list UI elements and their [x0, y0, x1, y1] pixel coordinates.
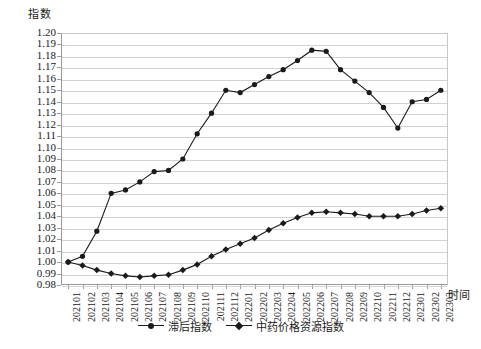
data-point [309, 210, 316, 217]
data-point [80, 254, 85, 259]
data-point [137, 179, 142, 184]
series-1 [66, 48, 444, 265]
data-point [251, 235, 258, 242]
data-point [180, 156, 185, 161]
data-point [352, 79, 357, 84]
data-point [281, 67, 286, 72]
legend-label: 滞后指数 [168, 318, 212, 334]
data-point [166, 168, 171, 173]
data-point [366, 213, 373, 220]
data-point [266, 74, 271, 79]
data-point [309, 48, 314, 53]
data-point [195, 131, 200, 136]
data-point [123, 187, 128, 192]
data-point [438, 205, 445, 212]
chart-figure: 指数 时间 1.201.191.181.171.161.151.141.131.… [0, 0, 481, 349]
data-point [238, 90, 243, 95]
data-point [79, 262, 86, 269]
data-point [323, 208, 330, 215]
data-point [209, 111, 214, 116]
circle-marker-icon [138, 321, 164, 331]
legend-item-1[interactable]: 滞后指数 [138, 318, 212, 334]
data-point [324, 49, 329, 54]
data-point [338, 67, 343, 72]
data-point [252, 82, 257, 87]
data-point [152, 169, 157, 174]
data-point [165, 271, 172, 278]
data-point [65, 259, 72, 266]
legend-item-2[interactable]: 中药价格资源指数 [226, 318, 344, 334]
data-point [395, 125, 400, 130]
chart-legend: 滞后指数中药价格资源指数 [0, 318, 481, 334]
data-point [223, 88, 228, 93]
data-point [109, 191, 114, 196]
data-point [108, 270, 115, 277]
data-point [180, 267, 187, 274]
data-point [295, 58, 300, 63]
data-point [294, 214, 301, 221]
data-point [380, 213, 387, 220]
data-point [223, 246, 230, 253]
data-point [409, 211, 416, 218]
data-point [438, 88, 443, 93]
data-point [367, 90, 372, 95]
data-point [424, 97, 429, 102]
data-point [122, 273, 129, 280]
data-point [237, 241, 244, 248]
data-point [381, 105, 386, 110]
series-2 [65, 205, 444, 280]
data-point [266, 227, 273, 234]
data-point [151, 273, 158, 280]
data-point [423, 207, 430, 214]
data-point [395, 213, 402, 220]
data-point [410, 99, 415, 104]
data-point [94, 229, 99, 234]
data-point [194, 261, 201, 268]
data-point [208, 253, 215, 260]
legend-label: 中药价格资源指数 [256, 318, 344, 334]
data-point [337, 210, 344, 217]
data-point [280, 220, 287, 227]
diamond-marker-icon [226, 321, 252, 331]
data-point [137, 274, 144, 281]
series-line [68, 208, 441, 277]
data-point [94, 267, 101, 274]
series-layer [0, 0, 481, 349]
data-point [352, 211, 359, 218]
